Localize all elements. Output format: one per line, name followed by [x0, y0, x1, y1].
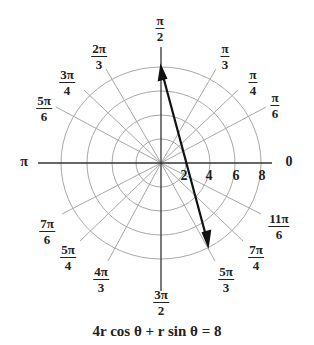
angle-label-7pi-6: 7π6	[39, 217, 55, 246]
angle-label-11pi-6: 11π6	[268, 212, 289, 241]
angle-label-pi-6: π6	[270, 91, 279, 120]
equation-caption: 4r cos θ + r sin θ = 8	[0, 323, 314, 340]
angle-label-5pi-6: 5π6	[36, 94, 52, 123]
radial-label-4: 4	[206, 168, 213, 184]
radial-label-8: 8	[259, 168, 266, 184]
arrowhead-bottom	[203, 231, 210, 245]
angle-label-3pi-2: 3π2	[153, 288, 169, 317]
radial-label-2: 2	[181, 168, 188, 184]
angle-label-4pi-3: 4π3	[93, 265, 109, 294]
arrowhead-top	[159, 67, 166, 80]
angle-label-pi-2: π2	[155, 14, 164, 43]
angle-label-7pi-4: 7π4	[248, 243, 264, 272]
radial-label-6: 6	[233, 168, 240, 184]
angle-label-pi: π	[20, 154, 28, 170]
angle-label-5pi-4: 5π4	[60, 243, 76, 272]
graph-line	[159, 67, 210, 245]
angle-label-pi-4: π4	[248, 68, 257, 97]
angle-label-2pi-3: 2π3	[91, 42, 107, 71]
angle-label-3pi-4: 3π4	[59, 68, 75, 97]
angle-label-5pi-3: 5π3	[218, 265, 234, 294]
angle-label-0: 0	[286, 154, 293, 170]
angle-label-pi-3: π3	[220, 42, 229, 71]
